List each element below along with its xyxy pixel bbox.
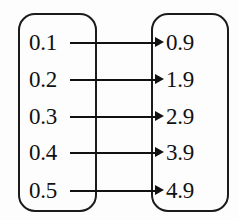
domain-value-5: 0.5 [29,179,57,202]
codomain-value-3: 2.9 [166,105,194,128]
domain-value-4: 0.4 [29,141,57,164]
mapping-arrow-3-line [70,116,158,118]
domain-value-1: 0.1 [29,31,57,54]
codomain-value-4: 3.9 [166,141,194,164]
domain-value-2: 0.2 [29,68,57,91]
codomain-value-5: 4.9 [166,179,194,202]
codomain-value-1: 0.9 [166,31,194,54]
mapping-arrow-4-line [70,152,158,154]
mapping-diagram: 0.1 0.2 0.3 0.4 0.5 0.9 1.9 2.9 3.9 4.9 [0,0,239,220]
domain-value-3: 0.3 [29,105,57,128]
mapping-arrow-5-head [155,185,164,195]
mapping-arrow-1-line [70,42,158,44]
clipped-header-sliver [0,0,239,7]
codomain-value-2: 1.9 [166,68,194,91]
mapping-arrow-1-head [155,37,164,47]
mapping-arrow-5-line [70,190,158,192]
mapping-arrow-2-line [70,79,158,81]
mapping-arrow-2-head [155,74,164,84]
mapping-arrow-3-head [155,111,164,121]
mapping-arrow-4-head [155,147,164,157]
